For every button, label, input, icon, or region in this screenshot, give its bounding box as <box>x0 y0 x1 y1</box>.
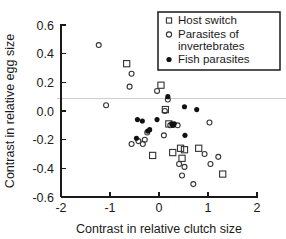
data-point-host-switch <box>170 149 176 155</box>
y-tick-label: 0.4 <box>37 47 54 61</box>
data-point-invertebrate-parasite <box>96 43 101 48</box>
x-tick-label: -1 <box>104 201 115 215</box>
x-tick-label: 2 <box>254 201 261 215</box>
data-point-host-switch <box>158 82 164 88</box>
data-point-fish-parasite <box>182 133 187 138</box>
data-point-host-switch <box>124 61 130 67</box>
y-tick-label: -0.6 <box>32 191 54 205</box>
legend: Host switchParasites ofinvertebratesFish… <box>158 12 280 70</box>
y-tick-label: 0.0 <box>37 105 54 119</box>
data-point-invertebrate-parasite <box>129 71 134 76</box>
data-point-invertebrate-parasite <box>191 182 196 187</box>
data-point-invertebrate-parasite <box>216 154 221 159</box>
legend-label-2: Parasites of <box>178 28 240 40</box>
data-point-invertebrate-parasite <box>202 152 207 157</box>
legend-marker-filled-circle <box>166 57 171 62</box>
data-point-fish-parasite <box>165 94 170 99</box>
data-point-invertebrate-parasite <box>140 141 145 146</box>
data-point-invertebrate-parasite <box>104 103 109 108</box>
scatter-plot-figure: -0.6-0.4-0.20.00.20.40.6-2-1012Contrast … <box>0 0 286 239</box>
chart-canvas: -0.6-0.4-0.20.00.20.40.6-2-1012Contrast … <box>0 0 286 239</box>
data-point-fish-parasite <box>147 127 152 132</box>
data-point-fish-parasite <box>182 104 187 109</box>
legend-label-2: invertebrates <box>178 40 245 52</box>
data-point-fish-parasite <box>140 118 145 123</box>
y-tick-label: -0.4 <box>32 162 54 176</box>
y-tick-label: 0.2 <box>37 76 54 90</box>
data-point-invertebrate-parasite <box>161 133 166 138</box>
data-point-fish-parasite <box>135 117 140 122</box>
data-point-invertebrate-parasite <box>208 162 213 167</box>
y-tick-label: -0.2 <box>32 133 54 147</box>
legend-label-3: Fish parasites <box>178 53 250 65</box>
data-point-invertebrate-parasite <box>127 84 132 89</box>
data-point-fish-parasite <box>154 117 159 122</box>
data-point-fish-parasite <box>172 121 177 126</box>
x-tick-label: 1 <box>205 201 212 215</box>
data-point-fish-parasite <box>194 107 199 112</box>
data-point-host-switch <box>220 171 226 177</box>
x-axis-title: Contrast in relative clutch size <box>76 222 242 236</box>
data-point-invertebrate-parasite <box>182 164 187 169</box>
data-point-invertebrate-parasite <box>129 141 134 146</box>
data-point-invertebrate-parasite <box>180 173 185 178</box>
data-point-invertebrate-parasite <box>207 120 212 125</box>
x-tick-label: -2 <box>55 201 66 215</box>
data-point-invertebrate-parasite <box>177 162 182 167</box>
y-tick-label: 0.6 <box>37 19 54 33</box>
data-point-invertebrate-parasite <box>155 88 160 93</box>
data-point-host-switch <box>150 152 156 158</box>
y-axis-title: Contrast in relative egg size <box>3 34 17 188</box>
data-point-host-switch <box>196 145 202 151</box>
data-point-fish-parasite <box>134 136 139 141</box>
legend-label-1: Host switch <box>178 14 237 26</box>
data-point-host-switch <box>179 155 185 161</box>
x-tick-label: 0 <box>156 201 163 215</box>
